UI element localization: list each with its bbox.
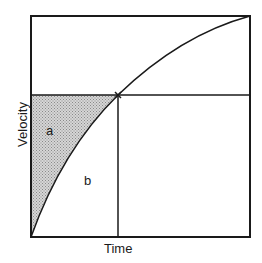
- velocity-time-diagram: [0, 0, 262, 263]
- x-axis-label: Time: [104, 242, 132, 255]
- y-axis-label: Velocity: [16, 97, 29, 153]
- region-b-label: b: [84, 174, 91, 187]
- region-a-label: a: [46, 124, 53, 137]
- region-a-shading: [31, 95, 118, 237]
